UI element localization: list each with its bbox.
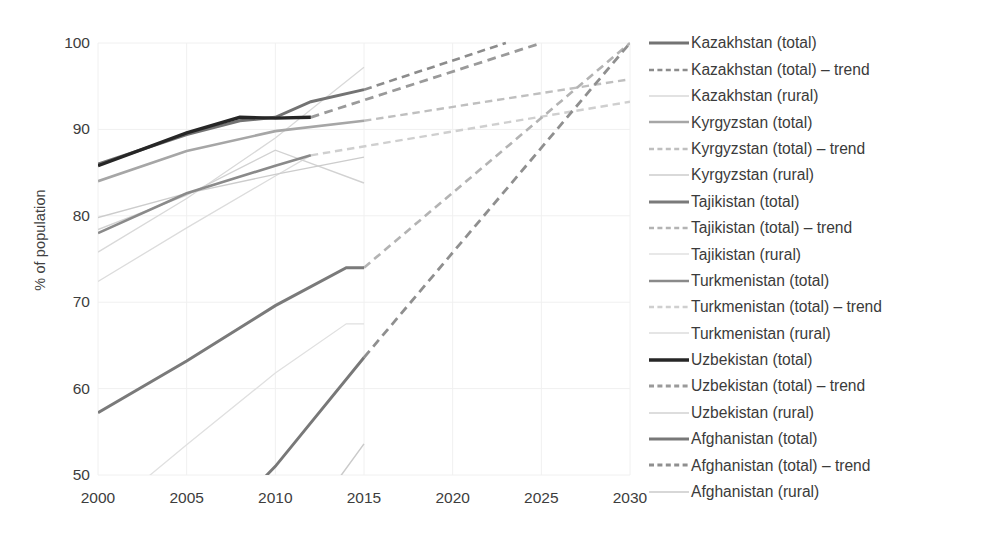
y-tick-50: 50 [46,467,90,483]
x-tick-2015: 2015 [329,490,399,506]
line-thin-icon [648,169,690,181]
y-tick-80: 80 [46,208,90,224]
y-tick-60: 60 [46,381,90,397]
legend-item[interactable]: Uzbekistan (total) – trend [648,373,992,399]
chart-legend: Kazakhstan (total)Kazakhstan (total) – t… [648,30,992,505]
line-dashed-icon [648,380,690,392]
legend-item[interactable]: Afghanistan (rural) [648,479,992,505]
legend-item-label: Kazakhstan (total) – trend [690,62,870,78]
legend-item[interactable]: Kazakhstan (total) – trend [648,56,992,82]
chart-figure: % of population 1009080706050 2000200520… [0,0,996,536]
legend-item-label: Turkmenistan (total) – trend [690,299,882,315]
legend-item-label: Tajikistan (rural) [690,247,801,263]
line-thin-icon [648,407,690,419]
legend-item[interactable]: Tajikistan (total) [648,188,992,214]
legend-item[interactable]: Tajikistan (total) – trend [648,215,992,241]
legend-item-label: Uzbekistan (total) – trend [690,378,865,394]
series-line [98,155,311,233]
x-tick-2025: 2025 [506,490,576,506]
line-thin-icon [648,248,690,260]
legend-item-label: Kyrgyzstan (total) – trend [690,141,865,157]
legend-item[interactable]: Kazakhstan (total) [648,30,992,56]
line-solid-icon [648,275,690,287]
series-line [364,43,630,358]
line-dashed-icon [648,459,690,471]
legend-item-label: Uzbekistan (rural) [690,405,814,421]
legend-item[interactable]: Tajikistan (rural) [648,241,992,267]
series-line [98,117,311,165]
legend-item[interactable]: Uzbekistan (rural) [648,399,992,425]
legend-item-label: Turkmenistan (total) [690,273,829,289]
line-thin-icon [648,90,690,102]
x-tick-2010: 2010 [240,490,310,506]
legend-item-label: Kazakhstan (rural) [690,88,818,104]
series-canvas [98,43,630,475]
y-tick-90: 90 [46,121,90,137]
series-line [364,43,506,90]
line-dashed-icon [648,64,690,76]
y-tick-70: 70 [46,294,90,310]
legend-item-label: Kyrgyzstan (total) [690,115,812,131]
legend-item[interactable]: Turkmenistan (total) – trend [648,294,992,320]
gridlines [98,43,630,475]
legend-item[interactable]: Turkmenistan (rural) [648,320,992,346]
legend-item-label: Afghanistan (total) [690,431,818,447]
x-tick-2005: 2005 [152,490,222,506]
x-tick-2020: 2020 [418,490,488,506]
y-tick-100: 100 [46,35,90,51]
series-line [98,157,364,217]
legend-item-label: Afghanistan (total) – trend [690,458,870,474]
series-line [98,150,364,229]
legend-item[interactable]: Kyrgyzstan (rural) [648,162,992,188]
line-dashed-icon [648,301,690,313]
line-thin-icon [648,327,690,339]
legend-item-label: Tajikistan (total) [690,194,799,210]
legend-item[interactable]: Afghanistan (total) [648,426,992,452]
series-line [364,79,630,120]
line-solid-icon [648,37,690,49]
legend-item[interactable]: Afghanistan (total) – trend [648,452,992,478]
legend-item-label: Kyrgyzstan (rural) [690,167,814,183]
series-line [98,67,364,252]
x-tick-2000: 2000 [63,490,133,506]
legend-item[interactable]: Kyrgyzstan (total) [648,109,992,135]
line-dashed-icon [648,143,690,155]
line-thin-icon [648,486,690,498]
line-solid-icon [648,354,690,366]
legend-item-label: Turkmenistan (rural) [690,326,831,342]
line-solid-icon [648,433,690,445]
legend-item[interactable]: Kyrgyzstan (total) – trend [648,136,992,162]
plot-area [98,43,630,475]
legend-item-label: Tajikistan (total) – trend [690,220,852,236]
legend-item-label: Kazakhstan (total) [690,35,817,51]
y-axis-tick-labels: 1009080706050 [46,0,90,536]
line-solid-icon [648,196,690,208]
legend-item[interactable]: Turkmenistan (total) [648,268,992,294]
series-line [311,43,542,117]
line-solid-icon [648,116,690,128]
series-line [98,268,364,413]
line-dashed-icon [648,222,690,234]
legend-item-label: Afghanistan (rural) [690,484,819,500]
legend-item[interactable]: Uzbekistan (total) [648,347,992,373]
legend-item-label: Uzbekistan (total) [690,352,812,368]
legend-item[interactable]: Kazakhstan (rural) [648,83,992,109]
series-line [311,102,630,156]
